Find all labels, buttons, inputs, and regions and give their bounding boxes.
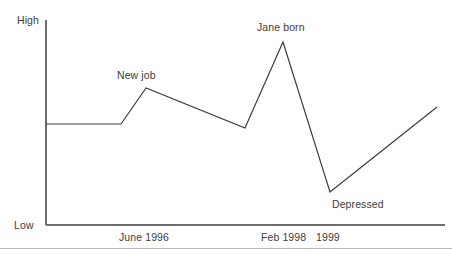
annotation-depressed: Depressed	[332, 198, 384, 210]
line-chart-canvas	[0, 0, 452, 254]
y-axis-high-label: High	[17, 14, 39, 26]
x-axis-tick-1999: 1999	[316, 231, 340, 243]
annotation-new-job: New job	[117, 69, 156, 81]
mood-series-line	[46, 42, 437, 192]
x-axis-tick-feb-1998: Feb 1998	[261, 231, 306, 243]
x-axis-tick-june-1996: June 1996	[119, 231, 169, 243]
y-axis-low-label: Low	[14, 219, 34, 231]
chart-figure: High Low New job Jane born Depressed Jun…	[0, 0, 452, 254]
annotation-jane-born: Jane born	[257, 21, 305, 33]
